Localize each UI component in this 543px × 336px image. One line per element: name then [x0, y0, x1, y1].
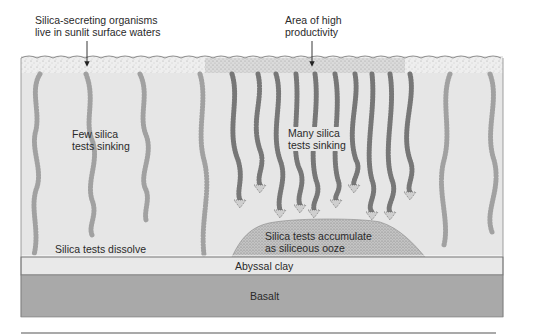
ocean-cross-section — [0, 0, 543, 336]
few-tests-label: Few silica tests sinking — [72, 128, 130, 152]
productivity-callout: Area of high productivity — [285, 14, 342, 38]
many-tests-label: Many silica tests sinking — [288, 127, 346, 151]
surface-callout: Silica-secreting organisms live in sunli… — [35, 14, 160, 38]
basalt-label: Basalt — [250, 290, 279, 302]
abyssal-clay-label: Abyssal clay — [235, 260, 293, 272]
high-productivity-zone — [205, 58, 405, 73]
dissolve-label: Silica tests dissolve — [55, 243, 146, 255]
accumulate-label: Silica tests accumulate as siliceous ooz… — [265, 230, 372, 254]
